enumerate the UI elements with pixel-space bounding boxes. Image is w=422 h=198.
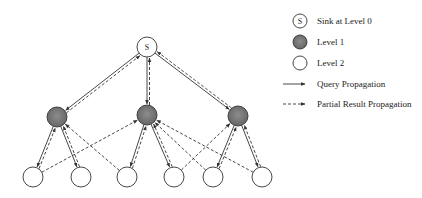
diagram-canvas: S S Sink at Level 0 Level 1 Level 2 Quer… xyxy=(0,0,422,198)
level1-node xyxy=(228,106,248,126)
level1-node xyxy=(47,107,67,127)
legend-partial: Partial Result Propagation xyxy=(283,99,412,109)
level2-node xyxy=(203,167,223,187)
partial-result-edge xyxy=(66,56,139,113)
partial-result-edge xyxy=(155,123,206,171)
query-edge xyxy=(151,124,170,167)
level2-node xyxy=(23,167,43,187)
partial-result-edge xyxy=(42,120,138,172)
legend-level1: Level 1 xyxy=(293,35,344,49)
query-edge xyxy=(242,125,258,166)
nodes-layer: S xyxy=(23,37,272,187)
partial-result-edge xyxy=(154,124,173,167)
level2-node xyxy=(164,167,184,187)
legend-sink-label: Sink at Level 0 xyxy=(317,16,372,26)
partial-result-edge xyxy=(157,52,231,108)
query-edge xyxy=(37,126,53,167)
legend-partial-label: Partial Result Propagation xyxy=(317,99,412,109)
partial-result-edge xyxy=(132,126,146,168)
partial-result-edge xyxy=(244,125,260,166)
legend-level2: Level 2 xyxy=(293,56,344,70)
level2-node xyxy=(252,167,272,187)
query-edge xyxy=(155,53,229,109)
partial-result-edge xyxy=(181,124,230,171)
level1-node-icon xyxy=(293,35,307,49)
level1-node xyxy=(137,105,157,125)
partial-result-edge xyxy=(39,128,55,169)
legend-level2-label: Level 2 xyxy=(317,58,344,68)
partial-result-edge xyxy=(63,126,79,167)
level2-node xyxy=(71,167,91,187)
level2-node xyxy=(117,167,137,187)
node-label: S xyxy=(145,43,149,52)
query-edge xyxy=(130,125,144,167)
sink-symbol: S xyxy=(298,17,302,26)
legend-level1-label: Level 1 xyxy=(317,37,344,47)
query-edge xyxy=(217,125,234,167)
legend-query-label: Query Propagation xyxy=(317,79,386,89)
query-edge xyxy=(61,126,77,167)
query-edge xyxy=(66,53,139,110)
partial-result-edge xyxy=(65,124,119,170)
partial-result-edge xyxy=(219,127,236,169)
legend-sink: S Sink at Level 0 xyxy=(293,14,372,28)
legend-query: Query Propagation xyxy=(283,79,386,89)
level2-node-icon xyxy=(293,56,307,70)
legend: S Sink at Level 0 Level 1 Level 2 Query … xyxy=(283,14,412,109)
